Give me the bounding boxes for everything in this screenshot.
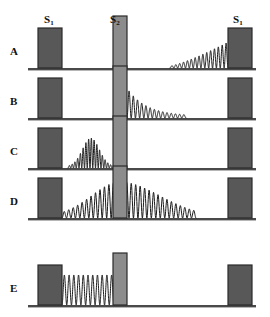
- wave-row-b: [28, 66, 256, 120]
- barrier-s1-left-e: [38, 265, 62, 305]
- row-label-c: C: [10, 146, 18, 157]
- barrier-s2-e: [113, 253, 127, 305]
- barrier-s1-left-d: [38, 178, 62, 218]
- barrier-s2-d: [113, 166, 127, 218]
- wave-curve-c: [68, 138, 112, 168]
- source-label-3: S1: [233, 14, 243, 25]
- wave-curve-d: [62, 182, 196, 218]
- row-label-d: D: [10, 196, 18, 207]
- barrier-s1-right-d: [228, 178, 252, 218]
- wave-row-a: [28, 16, 256, 70]
- physics-wave-figure: S1S2S1ABCDE: [0, 0, 270, 317]
- wave-row-e: [28, 253, 256, 307]
- row-label-a: A: [10, 46, 18, 57]
- row-label-b: B: [10, 96, 17, 107]
- wave-row-d: [28, 166, 256, 220]
- barrier-s2-b: [113, 66, 127, 118]
- wave-curve-b: [127, 91, 186, 118]
- barrier-s1-right-e: [228, 265, 252, 305]
- barrier-s1-right-a: [228, 28, 252, 68]
- barrier-s2-c: [113, 116, 127, 168]
- row-label-e: E: [10, 283, 17, 294]
- barrier-s1-left-c: [38, 128, 62, 168]
- barrier-s1-left-a: [38, 28, 62, 68]
- barrier-s1-right-b: [228, 78, 252, 118]
- source-label-2: S2: [110, 14, 120, 25]
- wave-curve-a: [170, 43, 228, 68]
- source-label-1: S1: [44, 14, 54, 25]
- figure-canvas: [0, 0, 270, 317]
- wave-row-c: [28, 116, 256, 170]
- wave-curve-e: [62, 275, 114, 305]
- barrier-s1-right-c: [228, 128, 252, 168]
- barrier-s1-left-b: [38, 78, 62, 118]
